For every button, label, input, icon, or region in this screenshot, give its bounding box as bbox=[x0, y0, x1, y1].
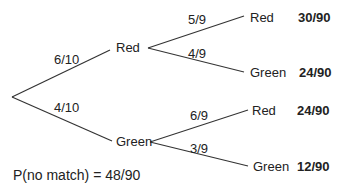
joint-red-red: 30/90 bbox=[298, 11, 331, 24]
leaf-red-green: Green bbox=[250, 66, 286, 79]
leaf-green-green: Green bbox=[253, 160, 289, 173]
branch-prob-red: 6/10 bbox=[54, 53, 79, 66]
branch-prob-green-green: 3/9 bbox=[190, 142, 208, 155]
node-green: Green bbox=[116, 135, 152, 148]
joint-red-green: 24/90 bbox=[299, 66, 332, 79]
branch-prob-green: 4/10 bbox=[54, 101, 79, 114]
branch-prob-green-red: 6/9 bbox=[190, 109, 208, 122]
leaf-red-red: Red bbox=[250, 11, 274, 24]
joint-green-green: 12/90 bbox=[297, 160, 330, 173]
branch-prob-red-red: 5/9 bbox=[188, 13, 206, 26]
result-text: P(no match) = 48/90 bbox=[13, 168, 140, 182]
leaf-green-red: Red bbox=[252, 104, 276, 117]
node-red: Red bbox=[116, 41, 140, 54]
branch-prob-red-green: 4/9 bbox=[188, 47, 206, 60]
joint-green-red: 24/90 bbox=[297, 104, 330, 117]
